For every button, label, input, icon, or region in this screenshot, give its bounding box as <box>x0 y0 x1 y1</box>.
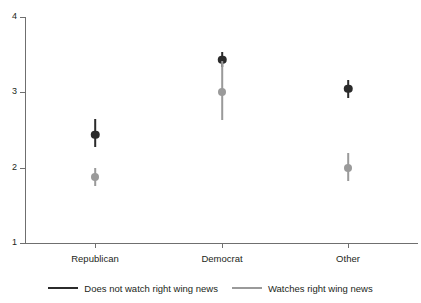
chart-legend: Does not watch right wing newsWatches ri… <box>0 278 421 298</box>
data-point-other-series-1 <box>344 164 352 172</box>
y-tick-label-wrap-4: 4 <box>0 12 17 21</box>
data-point-republican-series-0 <box>91 130 100 139</box>
chart-figure: 1234 RepublicanDemocratOther Does not wa… <box>0 0 421 303</box>
y-tick-1 <box>20 243 25 244</box>
y-tick-2 <box>20 168 25 169</box>
legend-entry-0[interactable]: Does not watch right wing news <box>48 283 218 294</box>
x-tick-label-other: Other <box>336 253 360 264</box>
y-axis-line <box>25 17 26 244</box>
y-tick-4 <box>20 17 25 18</box>
y-tick-label-wrap-1: 1 <box>0 238 17 247</box>
x-tick-label-republican: Republican <box>71 253 119 264</box>
data-point-other-series-0 <box>344 84 353 93</box>
x-tick-label-democrat: Democrat <box>201 253 242 264</box>
y-tick-label: 2 <box>3 163 17 172</box>
y-tick-label: 4 <box>3 12 17 21</box>
x-tick-democrat <box>222 243 223 248</box>
data-point-democrat-series-1 <box>218 88 226 96</box>
legend-label: Watches right wing news <box>268 283 373 294</box>
y-tick-label: 3 <box>3 87 17 96</box>
x-tick-other <box>348 243 349 248</box>
plot-area: 1234 RepublicanDemocratOther <box>0 0 421 303</box>
y-tick-label: 1 <box>3 238 17 247</box>
legend-label: Does not watch right wing news <box>84 283 218 294</box>
legend-entry-1[interactable]: Watches right wing news <box>232 283 373 294</box>
y-tick-label-wrap-3: 3 <box>0 87 17 96</box>
x-tick-republican <box>95 243 96 248</box>
y-tick-label-wrap-2: 2 <box>0 163 17 172</box>
legend-line-icon <box>232 287 262 289</box>
data-point-republican-series-1 <box>91 173 99 181</box>
y-tick-3 <box>20 92 25 93</box>
legend-line-icon <box>48 287 78 289</box>
